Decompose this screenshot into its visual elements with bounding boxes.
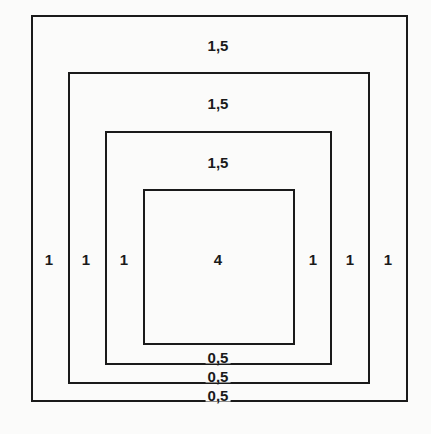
left-label-third: 1 [120, 252, 128, 267]
bottom-label-third: 0,5 [206, 351, 231, 364]
top-label-second: 1,5 [208, 96, 229, 111]
right-label-third: 1 [309, 252, 317, 267]
bottom-label-second: 0,5 [206, 370, 231, 383]
top-label-outer: 1,5 [208, 38, 229, 53]
top-label-third: 1,5 [208, 155, 229, 170]
bottom-label-outer: 0,5 [206, 389, 231, 402]
left-label-outer: 1 [45, 252, 53, 267]
right-label-second: 1 [346, 252, 354, 267]
left-label-second: 1 [82, 252, 90, 267]
right-label-outer: 1 [384, 252, 392, 267]
center-label: 4 [214, 252, 222, 267]
